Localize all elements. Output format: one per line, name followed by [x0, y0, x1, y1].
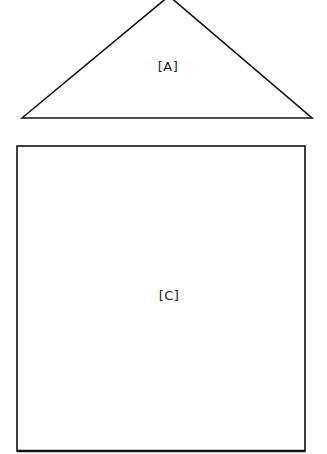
label-a: [A]: [158, 59, 179, 74]
label-c: [C]: [159, 288, 180, 303]
